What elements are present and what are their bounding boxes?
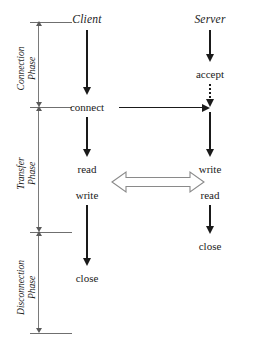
phase-label-connection-line2: Phase <box>26 24 37 114</box>
connection-phase-measure-bar <box>38 25 39 104</box>
phase-label-transfer-line2: Phase <box>26 129 37 219</box>
phase-label-connection-line1: Connection <box>16 47 26 91</box>
transfer-phase-arrowhead-top <box>36 106 42 111</box>
data-exchange-double-arrow <box>111 170 205 194</box>
client-arrowhead-to-close <box>83 258 91 266</box>
client-lifeline-segment-3 <box>86 205 87 259</box>
phase-label-disconnection-line1: Disconnection <box>16 260 26 315</box>
server-lifeline-segment-1 <box>209 30 210 55</box>
server-step-accept: accept <box>170 68 250 80</box>
server-arrowhead-to-write <box>206 149 214 157</box>
connect-request-arrowhead <box>202 104 210 112</box>
server-step-close: close <box>170 240 250 252</box>
client-arrowhead-to-read <box>83 149 91 157</box>
transfer-phase-measure-bar <box>38 110 39 229</box>
server-arrowhead-to-accept <box>206 54 214 62</box>
client-step-close: close <box>47 272 127 284</box>
disconnection-phase-measure-bar <box>38 235 39 330</box>
phase-label-disconnection: Disconnection Phase <box>16 243 37 333</box>
protocol-phase-diagram: Connection Phase Transfer Phase Disconne… <box>0 0 253 349</box>
phase-label-transfer: Transfer Phase <box>16 129 37 219</box>
server-lifeline-segment-3 <box>209 205 210 227</box>
phase-label-connection: Connection Phase <box>16 24 37 114</box>
connect-request-arrow <box>119 107 204 108</box>
phase-label-disconnection-line2: Phase <box>26 243 37 333</box>
server-arrowhead-to-close <box>206 226 214 234</box>
column-header-client: Client <box>47 13 127 25</box>
client-lifeline-segment-1 <box>86 30 87 88</box>
server-lifeline-segment-2 <box>209 112 210 150</box>
phase-label-transfer-line1: Transfer <box>16 157 26 189</box>
phase-boundary-bottom <box>30 333 72 334</box>
client-arrowhead-to-connect <box>83 87 91 95</box>
column-header-server: Server <box>170 13 250 25</box>
client-lifeline-segment-2 <box>86 117 87 150</box>
client-step-connect: connect <box>47 101 127 113</box>
disconnection-phase-arrowhead-top <box>36 231 42 236</box>
